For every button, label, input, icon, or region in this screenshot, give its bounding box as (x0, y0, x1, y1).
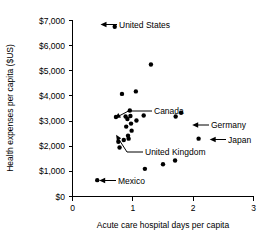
data-point (134, 118, 138, 122)
y-tick-label-5000: $5,000 (39, 66, 65, 76)
data-point (124, 124, 128, 128)
data-point (134, 89, 138, 93)
data-point (120, 92, 124, 96)
data-point (161, 162, 165, 166)
scatter-chart: $0 $1,000 $2,000 $3,000 $4,000 $5,000 $6… (0, 0, 274, 242)
data-point-united-kingdom (129, 128, 133, 132)
y-tick-label-3000: $3,000 (39, 116, 65, 126)
annotation-label-japan: Japan (228, 135, 251, 145)
plot-area: $0 $1,000 $2,000 $3,000 $4,000 $5,000 $6… (0, 0, 274, 242)
data-point (126, 136, 130, 140)
x-axis-title: Acute care hospital days per capita (97, 220, 230, 230)
data-point-united-states (113, 25, 117, 29)
x-tick-label-1: 1 (130, 203, 135, 213)
annotation-label-germany: Germany (211, 120, 247, 130)
y-tick-label-7000: $7,000 (39, 16, 65, 26)
annotation-label-united-kingdom: United Kingdom (145, 147, 205, 157)
x-tick-label-3: 3 (251, 203, 256, 213)
data-point (122, 138, 126, 142)
y-tick-label-1000: $1,000 (39, 166, 65, 176)
data-point (173, 158, 177, 162)
data-point (117, 145, 121, 149)
y-tick-label-0: $0 (56, 192, 66, 202)
data-point (141, 113, 145, 117)
x-tick-label-0: 0 (70, 203, 75, 213)
data-point (128, 114, 132, 118)
data-point-japan (196, 136, 200, 140)
data-point (149, 62, 153, 66)
y-tick-label-2000: $2,000 (39, 141, 65, 151)
y-tick-label-4000: $4,000 (39, 91, 65, 101)
y-axis-title: Health expenses per capita ($US) (5, 44, 15, 172)
data-point-mexico (95, 178, 99, 182)
x-tick-label-2: 2 (191, 203, 196, 213)
y-tick-label-6000: $6,000 (39, 41, 65, 51)
annotation-label-canada: Canada (154, 106, 184, 116)
data-point (143, 167, 147, 171)
annotation-label-mexico: Mexico (118, 176, 145, 186)
annotation-label-united-states: United States (119, 20, 170, 30)
data-point (129, 121, 133, 125)
